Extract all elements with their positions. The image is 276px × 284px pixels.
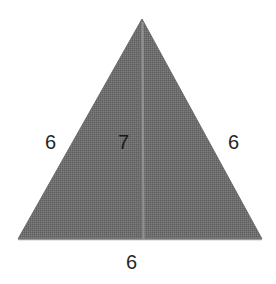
left-side-length-label: 6: [45, 132, 56, 152]
triangle-diagram: 6 7 6 6: [0, 0, 276, 284]
base-length-label: 6: [126, 252, 137, 272]
right-side-length-label: 6: [228, 132, 239, 152]
altitude-length-label: 7: [118, 132, 129, 152]
triangle-shape: [18, 19, 262, 239]
altitude-line: [143, 22, 144, 239]
